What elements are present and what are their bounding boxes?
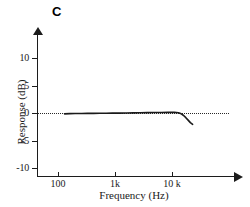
figure-panel-c: C 1050-5-10 1001k10 k Response (dB) Freq… [0,0,250,207]
plot-area: 1050-5-10 1001k10 k Response (dB) Freque… [0,0,250,207]
response-curve-svg [0,0,250,207]
x-axis-title: Frequency (Hz) [74,189,194,202]
response-curve [64,112,192,124]
y-axis-title: Response (dB) [15,52,27,172]
